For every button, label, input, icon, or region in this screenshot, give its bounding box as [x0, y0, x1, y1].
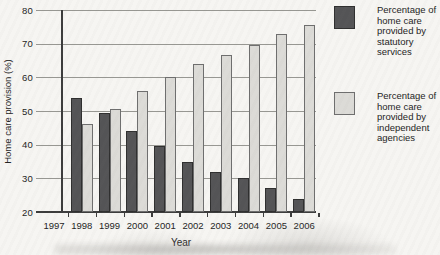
x-tick-label: 2006 [287, 220, 321, 231]
bar-statutory-2003 [210, 172, 221, 212]
bar-statutory-2004 [238, 178, 249, 212]
y-tick-label: 20 [7, 207, 33, 218]
bar-independent-2005 [276, 34, 287, 212]
x-axis-tick [68, 213, 70, 217]
x-axis-tick [318, 213, 320, 217]
y-tick-label: 40 [7, 139, 33, 150]
bar-statutory-2001 [154, 146, 165, 212]
bar-independent-1998 [82, 124, 93, 212]
bar-independent-2004 [249, 45, 260, 212]
legend-label-statutory: Percentage of home care provided by stat… [377, 5, 439, 58]
x-axis-tick [207, 213, 209, 217]
bar-statutory-1999 [99, 113, 110, 212]
home-care-bar-chart: Home care provision (%) Year Percentage … [0, 0, 440, 255]
bar-independent-2001 [165, 77, 176, 212]
gridline [36, 44, 316, 45]
bar-independent-2006 [304, 25, 315, 212]
x-axis-tick [96, 213, 98, 217]
y-tick-label: 80 [7, 5, 33, 16]
bar-statutory-2006 [293, 199, 304, 212]
y-tick-label: 70 [7, 38, 33, 49]
bar-statutory-2000 [126, 131, 137, 212]
x-axis-tick [124, 213, 126, 217]
legend-swatch [334, 6, 355, 29]
bar-statutory-1998 [71, 98, 82, 212]
bar-statutory-2005 [265, 188, 276, 212]
scan-smear-artifact [55, 245, 395, 254]
bar-independent-2002 [193, 64, 204, 212]
y-axis-line [61, 10, 63, 213]
x-axis-tick [235, 213, 237, 217]
legend-label-independent: Percentage of home care provided by inde… [377, 91, 439, 144]
bar-independent-2003 [221, 55, 232, 212]
bar-statutory-2002 [182, 162, 193, 213]
x-axis-tick [290, 213, 292, 217]
x-axis-tick [151, 213, 153, 217]
y-tick-label: 50 [7, 106, 33, 117]
y-tick-label: 30 [7, 173, 33, 184]
x-axis-tick [263, 213, 265, 217]
gridline [36, 10, 316, 11]
y-tick-label: 60 [7, 72, 33, 83]
legend-swatch [334, 92, 355, 115]
x-axis-tick [179, 213, 181, 217]
bar-independent-1999 [110, 109, 121, 212]
bar-independent-2000 [137, 91, 148, 212]
